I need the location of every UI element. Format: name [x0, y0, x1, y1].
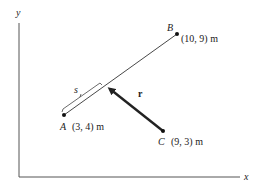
point-b-name: B: [167, 22, 173, 33]
s-bracket: s: [62, 83, 102, 112]
s-label: s: [74, 84, 78, 95]
point-c: C (9, 3) m: [158, 129, 203, 148]
point-b: B (10, 9) m: [167, 22, 218, 45]
diagram-canvas: y x s r A (3, 4) m B (10, 9) m C (9, 3) …: [0, 0, 260, 189]
vector-r: r: [110, 88, 163, 131]
point-c-dot: [161, 129, 165, 133]
line-ab: [64, 34, 177, 115]
x-axis-label: x: [243, 171, 249, 182]
point-a-dot: [62, 113, 66, 117]
point-c-name: C: [158, 136, 165, 147]
r-arrow: [110, 89, 163, 131]
point-b-dot: [175, 32, 179, 36]
point-a: A (3, 4) m: [59, 113, 104, 133]
r-label: r: [138, 88, 143, 99]
point-b-coords: (10, 9) m: [181, 33, 218, 45]
y-axis-label: y: [15, 7, 21, 18]
point-a-coords: (3, 4) m: [72, 121, 104, 133]
point-a-name: A: [59, 121, 67, 132]
point-c-coords: (9, 3) m: [171, 136, 203, 148]
